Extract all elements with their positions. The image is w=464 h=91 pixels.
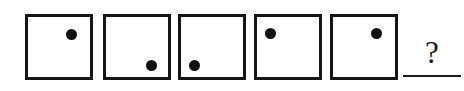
sequence-box-2 <box>103 14 171 80</box>
answer-blank-line <box>403 75 461 77</box>
sequence-box-5 <box>330 14 398 80</box>
sequence-box-1 <box>25 14 93 80</box>
dot-upper-right <box>371 28 382 39</box>
dot-lower-right <box>146 60 157 71</box>
answer-slot[interactable]: ? <box>402 30 462 82</box>
dot-upper-left <box>265 28 276 39</box>
question-mark: ? <box>402 30 462 76</box>
sequence-box-4 <box>254 14 322 80</box>
dot-upper-right <box>66 29 77 40</box>
sequence-box-3 <box>178 14 246 80</box>
dot-lower-left <box>189 60 200 71</box>
sequence-puzzle-diagram: ? <box>0 0 464 91</box>
